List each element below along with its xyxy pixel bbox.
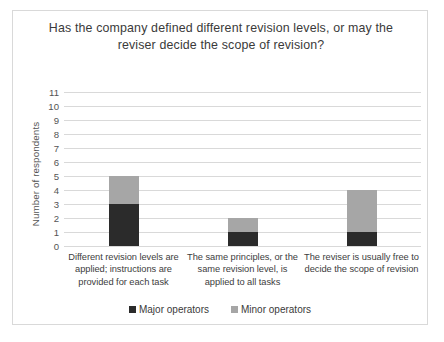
plot-area: 01234567891011	[64, 92, 421, 246]
y-axis-tick-label: 9	[54, 115, 59, 126]
legend-item[interactable]: Major operators	[129, 304, 209, 315]
y-axis-tick-label: 5	[54, 171, 59, 182]
stacked-bar[interactable]	[347, 190, 377, 246]
bar-segment-major-operators[interactable]	[228, 232, 258, 246]
y-axis-tick-label: 11	[49, 87, 59, 98]
bar-segment-major-operators[interactable]	[347, 232, 377, 246]
legend-label: Minor operators	[241, 304, 311, 315]
gridline	[64, 92, 421, 93]
gridline	[64, 246, 421, 247]
y-axis-tick-label: 0	[54, 241, 59, 252]
legend-label: Major operators	[139, 304, 209, 315]
gridline	[64, 134, 421, 135]
y-axis-tick-label: 4	[54, 185, 59, 196]
y-axis-tick-label: 2	[54, 213, 59, 224]
x-axis-category-label: Different revision levels are applied; i…	[64, 251, 183, 288]
chart-legend: Major operatorsMinor operators	[13, 304, 427, 315]
y-axis-tick-label: 10	[48, 101, 59, 112]
bar-segment-minor-operators[interactable]	[347, 190, 377, 232]
y-axis-tick-label: 8	[54, 129, 59, 140]
chart-container: Has the company defined different revisi…	[12, 10, 428, 325]
gridline	[64, 106, 421, 107]
y-axis-title: Number of respondents	[30, 99, 44, 249]
stacked-bar[interactable]	[228, 218, 258, 246]
legend-color-swatch	[231, 306, 238, 313]
y-axis-tick-label: 7	[54, 143, 59, 154]
legend-item[interactable]: Minor operators	[231, 304, 311, 315]
bar-segment-minor-operators[interactable]	[109, 176, 139, 204]
y-axis-tick-label: 3	[54, 199, 59, 210]
gridline	[64, 148, 421, 149]
chart-title: Has the company defined different revisi…	[41, 20, 401, 53]
gridline	[64, 120, 421, 121]
y-axis-tick-label: 6	[54, 157, 59, 168]
legend-color-swatch	[129, 306, 136, 313]
y-axis-tick-label: 1	[54, 227, 59, 238]
x-axis-category-label: The same principles, or the same revisio…	[183, 251, 302, 288]
stacked-bar[interactable]	[109, 176, 139, 246]
x-axis-category-label: The reviser is usually free to decide th…	[302, 251, 421, 276]
gridline	[64, 162, 421, 163]
bar-segment-minor-operators[interactable]	[228, 218, 258, 232]
bar-segment-major-operators[interactable]	[109, 204, 139, 246]
